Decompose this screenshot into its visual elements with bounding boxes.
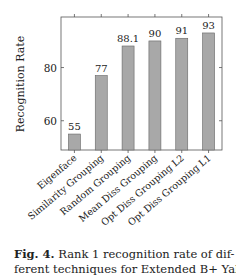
bar: [149, 41, 161, 150]
caption-label: Fig. 4.: [14, 247, 55, 261]
caption-text-line2: ferent techniques for Extended B+ Yale: [14, 262, 236, 277]
bar-value-label: 77: [95, 63, 108, 74]
plot-frame: [61, 17, 222, 150]
bar-value-label: 90: [149, 28, 162, 39]
bar-value-label: 55: [68, 121, 81, 132]
x-axis-labels: EigenfaceSimilarity GroupingRandom Group…: [25, 152, 212, 228]
y-axis-label: Recognition Rate: [14, 36, 27, 132]
bar: [68, 134, 80, 150]
bar: [203, 33, 215, 150]
y-tick-label: 60: [44, 115, 57, 127]
bar: [122, 46, 134, 150]
caption-text-line1: Rank 1 recognition rate of dif-: [55, 247, 235, 261]
bar-value-label: 91: [175, 25, 188, 36]
bars: [68, 14, 214, 153]
axes-box: [61, 17, 222, 150]
data-labels: 557788.1909193: [68, 20, 215, 132]
y-tick-label: 80: [44, 62, 57, 74]
bar-value-label: 88.1: [117, 33, 139, 44]
bar-value-label: 93: [202, 20, 215, 31]
figure-caption: Fig. 4. Rank 1 recognition rate of dif- …: [14, 247, 236, 277]
bar: [95, 76, 107, 150]
bar-chart: 6080 557788.1909193 EigenfaceSimilarity …: [0, 0, 236, 245]
bar: [176, 38, 188, 150]
